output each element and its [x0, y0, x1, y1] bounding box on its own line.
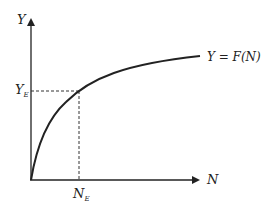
equilibrium-output-label: YE — [15, 82, 29, 99]
y-axis-label: Y — [17, 12, 27, 27]
curve-label: Y = F(N) — [207, 50, 261, 64]
production-curve — [31, 56, 200, 180]
production-function-diagram: Y N Y = F(N) YE NE — [0, 0, 269, 212]
equilibrium-employment-label: NE — [72, 186, 90, 203]
x-axis-label: N — [206, 172, 219, 187]
